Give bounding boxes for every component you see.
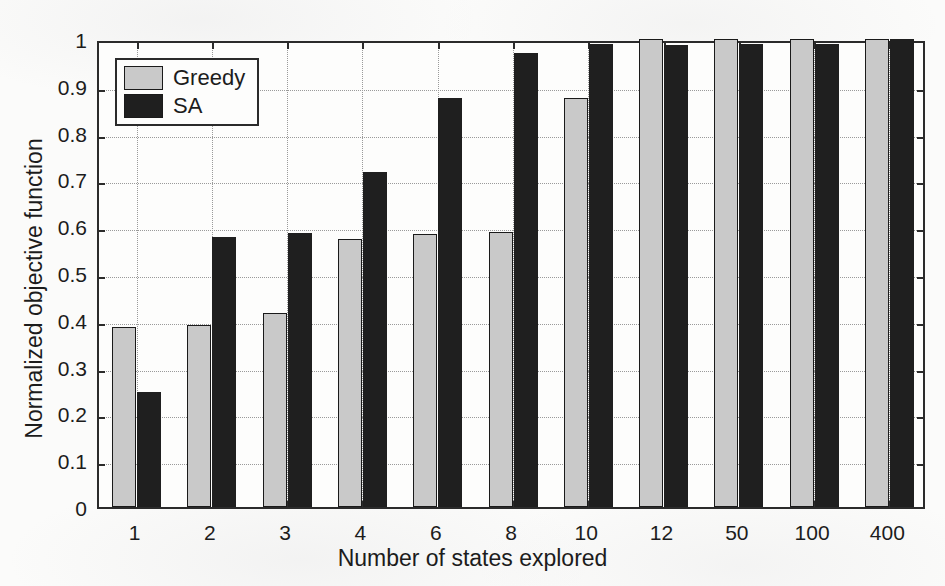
- y-axis-tick: [99, 324, 105, 326]
- legend-label-greedy: Greedy: [173, 67, 245, 89]
- plot-area: Greedy SA: [97, 41, 925, 509]
- x-tick-label: 10: [546, 521, 626, 545]
- x-tick-label: 1: [95, 521, 175, 545]
- y-axis-tick: [917, 277, 923, 279]
- y-tick-label: 0: [13, 497, 87, 521]
- y-tick-label: 0.5: [13, 263, 87, 287]
- bar-greedy-400: [865, 39, 889, 507]
- bar-greedy-6: [413, 234, 437, 507]
- bar-sa-2: [212, 237, 236, 507]
- y-tick-label: 0.4: [13, 310, 87, 334]
- y-tick-label: 0.3: [13, 357, 87, 381]
- x-axis-tick: [137, 43, 139, 49]
- figure-page: Greedy SA Normalized objective function …: [0, 0, 945, 586]
- bar-greedy-12: [639, 39, 663, 507]
- y-axis-tick: [917, 464, 923, 466]
- bar-sa-400: [890, 39, 914, 507]
- bar-greedy-3: [263, 313, 287, 507]
- y-axis-tick: [99, 464, 105, 466]
- bar-sa-8: [514, 53, 538, 507]
- y-tick-label: 0.8: [13, 123, 87, 147]
- bar-sa-4: [363, 172, 387, 507]
- y-axis-tick: [917, 324, 923, 326]
- bar-greedy-2: [187, 325, 211, 507]
- y-axis-tick: [99, 417, 105, 419]
- x-tick-label: 2: [170, 521, 250, 545]
- bar-greedy-4: [338, 239, 362, 507]
- y-tick-label: 0.1: [13, 450, 87, 474]
- y-tick-label: 0.6: [13, 216, 87, 240]
- legend-item-sa: SA: [124, 93, 245, 119]
- x-axis-tick: [212, 43, 214, 49]
- y-axis-tick: [99, 137, 105, 139]
- x-tick-label: 12: [622, 521, 702, 545]
- x-tick-label: 50: [697, 521, 777, 545]
- y-axis-tick: [917, 137, 923, 139]
- bar-sa-10: [589, 44, 613, 507]
- x-axis-tick: [287, 43, 289, 49]
- y-axis-tick: [917, 183, 923, 185]
- x-axis-tick: [362, 43, 364, 49]
- bar-sa-6: [438, 98, 462, 507]
- bar-sa-12: [664, 45, 688, 507]
- y-tick-label: 0.2: [13, 403, 87, 427]
- y-axis-tick: [917, 417, 923, 419]
- y-axis-tick: [99, 371, 105, 373]
- legend-label-sa: SA: [173, 95, 202, 117]
- y-tick-label: 0.7: [13, 169, 87, 193]
- bar-sa-50: [739, 44, 763, 507]
- y-axis-tick: [99, 230, 105, 232]
- x-tick-label: 6: [396, 521, 476, 545]
- y-axis-tick: [99, 183, 105, 185]
- chart-legend: Greedy SA: [115, 58, 259, 126]
- bar-sa-3: [288, 233, 312, 507]
- y-tick-label: 0.9: [13, 76, 87, 100]
- bar-greedy-50: [714, 39, 738, 507]
- bar-greedy-100: [790, 39, 814, 507]
- legend-swatch-greedy: [124, 66, 163, 90]
- bar-sa-1: [137, 392, 161, 507]
- x-tick-label: 400: [847, 521, 927, 545]
- y-tick-label: 1: [13, 29, 87, 53]
- x-tick-label: 100: [772, 521, 852, 545]
- y-axis-tick: [99, 277, 105, 279]
- x-tick-label: 8: [471, 521, 551, 545]
- x-axis-tick: [513, 43, 515, 49]
- x-tick-label: 4: [320, 521, 400, 545]
- y-axis-tick: [99, 90, 105, 92]
- bar-sa-100: [815, 44, 839, 507]
- x-axis-tick: [438, 43, 440, 49]
- x-tick-label: 3: [245, 521, 325, 545]
- x-axis-title: Number of states explored: [0, 545, 945, 572]
- bar-greedy-10: [564, 98, 588, 507]
- y-axis-tick: [917, 230, 923, 232]
- bar-greedy-8: [489, 232, 513, 507]
- legend-swatch-sa: [124, 94, 163, 118]
- y-axis-tick: [917, 90, 923, 92]
- bar-greedy-1: [112, 327, 136, 507]
- y-axis-tick: [917, 371, 923, 373]
- legend-item-greedy: Greedy: [124, 65, 245, 91]
